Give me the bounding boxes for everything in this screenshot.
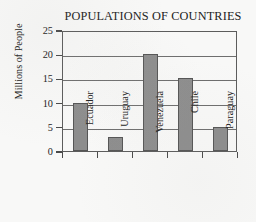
y-axis-tick-label: 20: [28, 50, 53, 60]
chart-title: POPULATIONS OF COUNTRIES: [60, 9, 246, 24]
y-axis-tick-label: 15: [28, 74, 53, 84]
x-axis-category-label: Venezuela: [154, 91, 165, 161]
x-axis-tick-mark: [237, 152, 238, 158]
y-axis-tick-label: 5: [28, 123, 53, 133]
y-axis-tick-label: 0: [28, 147, 53, 157]
y-axis-tick-label: 25: [28, 26, 53, 36]
x-axis-tick-mark: [62, 152, 63, 158]
x-axis-category-label: Paraguay: [224, 91, 235, 161]
x-axis-tick-mark: [167, 152, 168, 158]
x-axis-category-label: Chile: [189, 91, 200, 161]
x-axis-tick-mark: [97, 152, 98, 158]
x-axis-category-label: Ecuador: [84, 91, 95, 161]
bar-chart-figure: POPULATIONS OF COUNTRIES Millions of Peo…: [0, 0, 256, 222]
y-axis-tick-label: 10: [28, 99, 53, 109]
x-axis-tick-mark: [132, 152, 133, 158]
x-axis-category-label: Uruguay: [119, 91, 130, 161]
x-axis-tick-mark: [202, 152, 203, 158]
y-axis-title: Millions of People: [13, 14, 24, 110]
